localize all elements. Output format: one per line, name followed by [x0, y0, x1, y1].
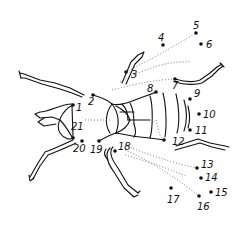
dot-10[interactable]: 10 [197, 109, 216, 120]
dot-marker[interactable] [71, 103, 75, 107]
left-rear-leg [29, 140, 76, 181]
dot-marker[interactable] [162, 138, 166, 142]
dot-15[interactable]: 15 [209, 187, 228, 198]
dot-7[interactable]: 7 [172, 77, 179, 91]
dot-1[interactable]: 1 [71, 102, 82, 113]
dot-number-label: 21 [71, 121, 84, 132]
dot-number-label: 13 [201, 159, 214, 170]
dots-layer: 123456789101112131415161718192021 [71, 20, 228, 212]
dot-14[interactable]: 14 [199, 172, 218, 183]
dot-17[interactable]: 17 [167, 186, 180, 205]
dot-6[interactable]: 6 [199, 39, 212, 50]
dot-number-label: 4 [158, 32, 164, 43]
dot-marker[interactable] [124, 70, 128, 74]
right-front-leg [175, 63, 224, 84]
dot-number-label: 3 [131, 69, 137, 80]
dot-number-label: 18 [118, 141, 131, 152]
dot-marker[interactable] [97, 139, 101, 143]
dot-18[interactable]: 18 [113, 141, 131, 153]
dot-12[interactable]: 12 [162, 136, 185, 147]
dot-number-label: 10 [203, 109, 216, 120]
dot-13[interactable]: 13 [195, 159, 214, 170]
dot-marker[interactable] [161, 43, 165, 47]
dot-marker[interactable] [113, 149, 117, 153]
dot-19[interactable]: 19 [90, 139, 103, 155]
head [35, 104, 73, 139]
lower-feet [105, 147, 140, 197]
dot-marker[interactable] [71, 136, 75, 140]
dot-marker[interactable] [197, 194, 201, 198]
abdomen-stripes [163, 93, 190, 137]
dot-number-label: 11 [195, 125, 208, 136]
dot-marker[interactable] [169, 186, 173, 190]
dot-marker[interactable] [209, 190, 213, 194]
dot-number-label: 14 [205, 172, 218, 183]
dot-4[interactable]: 4 [158, 32, 165, 47]
dot-marker[interactable] [188, 97, 192, 101]
dot-9[interactable]: 9 [188, 88, 200, 101]
dot-number-label: 15 [215, 187, 228, 198]
dot-16[interactable]: 16 [197, 194, 210, 212]
dot-marker[interactable] [199, 42, 203, 46]
dot-marker[interactable] [194, 31, 198, 35]
dot-number-label: 16 [197, 201, 210, 212]
dot-marker[interactable] [197, 112, 201, 116]
body [93, 92, 164, 141]
dot-number-label: 8 [147, 83, 153, 94]
connect-the-dots-canvas: 123456789101112131415161718192021 [0, 0, 242, 231]
dot-marker[interactable] [195, 166, 199, 170]
dot-number-label: 20 [73, 143, 86, 154]
dot-number-label: 17 [167, 194, 180, 205]
dot-2[interactable]: 2 [88, 93, 95, 107]
dot-11[interactable]: 11 [188, 125, 208, 136]
dot-number-label: 5 [193, 20, 199, 31]
dot-number-label: 2 [88, 96, 94, 107]
dot-marker[interactable] [188, 128, 192, 132]
dot-number-label: 19 [90, 144, 103, 155]
dot-number-label: 1 [76, 102, 82, 113]
dot-5[interactable]: 5 [193, 20, 199, 35]
dot-number-label: 9 [194, 88, 200, 99]
dot-marker[interactable] [154, 90, 158, 94]
dot-number-label: 6 [206, 39, 212, 50]
dot-number-label: 7 [172, 80, 179, 91]
dot-8[interactable]: 8 [147, 83, 158, 94]
dot-number-label: 12 [172, 136, 185, 147]
left-front-leg [19, 71, 84, 97]
dot-marker[interactable] [199, 176, 203, 180]
dot-21[interactable]: 21 [71, 121, 84, 140]
dot-20[interactable]: 20 [73, 139, 86, 154]
